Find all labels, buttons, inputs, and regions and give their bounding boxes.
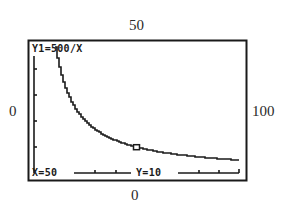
cursor-y-label: Y=10 [136,167,161,178]
trace-cursor [134,145,140,150]
screen-frame [29,41,247,181]
cursor-x-label: X=50 [32,167,57,178]
function-label: Y1=500/X [32,43,83,54]
calculator-graph-screen: Y1=500/X X=50 Y=10 [0,0,297,216]
